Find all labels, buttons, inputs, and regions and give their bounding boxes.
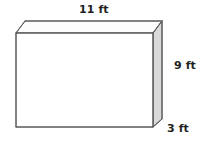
width-dimension-label: 11 ft (79, 4, 109, 15)
top-face (16, 21, 162, 33)
prism-faces (16, 21, 162, 127)
right-face (153, 21, 162, 127)
front-face (16, 33, 153, 127)
figure-canvas: 11 ft 9 ft 3 ft (0, 0, 208, 144)
depth-dimension-label: 3 ft (167, 123, 189, 134)
height-dimension-label: 9 ft (174, 60, 196, 71)
